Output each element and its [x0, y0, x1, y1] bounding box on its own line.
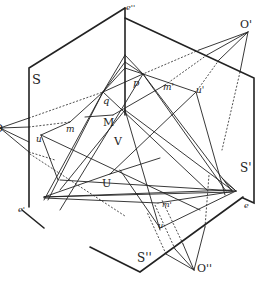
label-plane-s-prime: S': [240, 161, 252, 175]
label-p: p: [133, 77, 140, 88]
label-plane-s: S: [32, 72, 41, 87]
label-m-prime-low: m': [162, 200, 172, 209]
label-e: e: [244, 201, 249, 210]
label-U: U: [102, 177, 111, 190]
projection-diagram: S S' S'' e'' e' e O' O'' O q p m' u' m u…: [0, 0, 263, 281]
label-M: M: [103, 116, 114, 129]
rays-from-o: [0, 118, 29, 152]
rays-from-o-prime: [199, 32, 248, 72]
label-u-low: u: [158, 221, 163, 230]
dotted-rays-from-o-double: [147, 175, 209, 254]
label-o-double: O'': [197, 262, 212, 275]
label-e-double: e'': [126, 3, 135, 12]
label-o: O: [0, 122, 3, 135]
label-u-prime: u': [196, 85, 204, 95]
label-m-prime: m': [163, 82, 174, 92]
label-plane-s-double: S'': [137, 251, 152, 265]
label-q: q: [103, 95, 109, 106]
label-V: V: [113, 135, 123, 148]
label-o-prime: O': [240, 18, 252, 31]
label-m: m: [66, 124, 75, 134]
label-u: u: [36, 134, 42, 144]
dotted-rays-from-o: [29, 92, 125, 216]
label-e-prime: e': [18, 205, 25, 214]
labels: S S' S'' e'' e' e O' O'' O q p m' u' m u…: [0, 3, 252, 275]
plane-s-double-outline: [22, 197, 243, 272]
